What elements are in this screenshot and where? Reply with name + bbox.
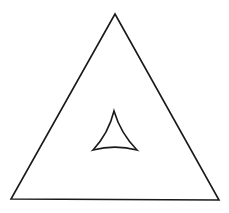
inner-deltoid [93,111,137,150]
diagram-canvas [0,0,229,213]
diagram-svg [0,0,229,213]
outer-triangle [11,14,219,200]
